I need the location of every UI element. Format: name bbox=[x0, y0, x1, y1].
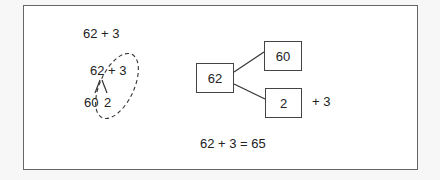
bond-ones-box: 2 bbox=[265, 88, 302, 118]
split-line-right bbox=[102, 80, 107, 93]
bond-whole-value: 62 bbox=[208, 71, 222, 86]
bond-tens-value: 60 bbox=[276, 49, 290, 64]
bond-line-ones bbox=[234, 84, 265, 99]
grouping-ellipse bbox=[87, 47, 147, 125]
bond-line-tens bbox=[234, 52, 264, 72]
bond-whole-box: 62 bbox=[196, 63, 234, 93]
bond-tens-box: 60 bbox=[264, 41, 302, 71]
bond-add-label: + 3 bbox=[312, 95, 330, 109]
result-equation: 62 + 3 = 65 bbox=[200, 137, 266, 151]
bond-ones-value: 2 bbox=[280, 96, 287, 111]
